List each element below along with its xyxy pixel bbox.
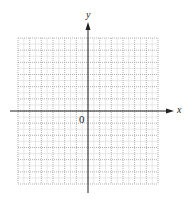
- coordinate-plane: y x 0: [0, 0, 189, 201]
- y-axis-label: y: [86, 10, 90, 20]
- y-arrow-icon: [86, 22, 91, 30]
- x-arrow-icon: [166, 109, 174, 114]
- origin-label: 0: [79, 114, 85, 125]
- x-axis-label: x: [177, 105, 181, 115]
- grid-graphic: [0, 0, 189, 201]
